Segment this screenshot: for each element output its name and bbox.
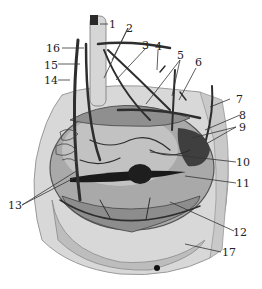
label-14: 14 <box>44 74 58 87</box>
anatomical-illustration: 1 2 3 4 5 6 7 8 9 10 11 12 13 14 15 16 1… <box>0 0 262 289</box>
label-12: 12 <box>233 226 247 239</box>
label-1: 1 <box>109 18 116 31</box>
optic-nerve <box>90 16 106 106</box>
label-6: 6 <box>195 56 202 69</box>
label-9: 9 <box>239 121 246 134</box>
optic-nerve-cap <box>90 15 98 25</box>
label-3: 3 <box>142 39 149 52</box>
label-7: 7 <box>236 93 243 106</box>
label-4: 4 <box>155 40 162 53</box>
label-10: 10 <box>236 156 250 169</box>
label-16: 16 <box>46 42 60 55</box>
label-15: 15 <box>44 59 58 72</box>
pupil <box>128 164 152 184</box>
label-5: 5 <box>177 49 184 62</box>
label-2: 2 <box>126 22 133 35</box>
label-17: 17 <box>222 246 236 259</box>
label-11: 11 <box>236 177 250 190</box>
foramen <box>154 265 160 271</box>
label-13: 13 <box>8 199 22 212</box>
